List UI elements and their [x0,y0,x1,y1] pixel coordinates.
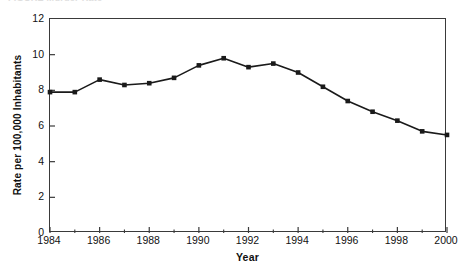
y-tick-label: 12 [24,13,44,24]
x-axis-title: Year [49,251,446,263]
data-point-marker [221,56,226,61]
x-tick-label: 2000 [434,234,457,246]
y-axis-tick-labels: 024681012 [22,0,44,271]
data-point-marker [321,84,326,89]
figure-container: FIGURE Murder Rate Rate per 100,000 Inha… [0,0,462,271]
line-chart-svg [50,19,447,233]
y-axis-title-text: Rate per 100,000 Inhabitants [12,55,23,196]
y-tick-label: 2 [24,191,44,202]
data-point-marker [73,90,78,95]
data-point-marker [197,63,202,68]
data-point-marker [122,83,127,88]
data-point-marker [97,77,102,82]
x-axis-major-ticks [50,227,447,233]
data-point-marker [246,65,251,70]
data-point-marker [370,109,375,114]
x-tick-label: 1992 [236,234,259,246]
x-tick-label: 1996 [335,234,358,246]
plot-area [49,18,446,232]
data-series-markers [48,56,450,137]
x-tick-label: 1998 [385,234,408,246]
y-tick-label: 6 [24,120,44,131]
x-tick-label: 1988 [137,234,160,246]
x-axis-tick-labels: 198419861988199019921994199619982000 [49,234,446,250]
data-series-line [50,58,447,135]
x-tick-label: 1986 [87,234,110,246]
x-tick-label: 1984 [37,234,60,246]
data-point-marker [147,81,152,86]
x-tick-label: 1994 [285,234,308,246]
data-point-marker [420,129,425,134]
data-point-marker [296,70,301,75]
data-point-marker [271,61,276,66]
y-tick-label: 10 [24,48,44,59]
y-tick-label: 8 [24,84,44,95]
data-point-marker [445,133,450,138]
y-tick-label: 4 [24,155,44,166]
x-tick-label: 1990 [186,234,209,246]
y-axis-tick-marks [50,55,55,198]
data-point-marker [395,118,400,123]
data-point-marker [345,99,350,104]
data-point-marker [48,90,53,95]
data-point-marker [172,76,177,81]
